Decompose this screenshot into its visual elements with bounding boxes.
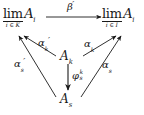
limit-left-index: i ∈ K (3, 22, 23, 29)
limit-left-body-subscript: i (33, 16, 35, 24)
label-phi-subscript: s (80, 75, 84, 81)
label-alpha-k-prime: αk′ (38, 38, 50, 50)
limit-right-body-subscript: i (132, 16, 134, 24)
label-alpha-s: αs (102, 60, 112, 72)
limit-left-operator-stack: lim i ∈ K (3, 7, 23, 29)
label-alpha-k: αk (84, 39, 94, 51)
limit-right-index: i ∈ I (102, 22, 122, 29)
limit-left-operator: lim (3, 7, 23, 22)
limit-right-operator: lim (102, 7, 122, 22)
label-alpha-s-subscript: s (109, 67, 112, 74)
node-limit-right: lim i ∈ I Ai (102, 7, 135, 29)
limit-right-body: Ai (123, 7, 135, 24)
commutative-diagram: lim i ∈ K Ai lim i ∈ I Ai Ak As β′ αk′ α… (0, 0, 144, 115)
label-alpha-k-subscript: k (91, 46, 95, 53)
label-alpha-s-prime-letter: α (14, 58, 21, 69)
object-middle-letter: A (60, 49, 69, 63)
label-phi: φks (72, 70, 83, 83)
label-alpha-k-prime-mark: ′ (48, 36, 50, 46)
label-alpha-k-letter: α (84, 38, 91, 49)
object-bottom-subscript: s (69, 101, 73, 109)
node-object-bottom: As (60, 93, 72, 108)
label-alpha-s-prime: αs′ (14, 59, 26, 71)
node-object-middle: Ak (60, 50, 73, 65)
label-beta-prime: β′ (67, 2, 75, 12)
node-limit-left: lim i ∈ K Ai (3, 7, 36, 29)
label-alpha-s-prime-mark: ′ (23, 57, 25, 67)
label-beta-prime-mark: ′ (72, 0, 74, 10)
object-bottom-letter: A (60, 92, 69, 106)
label-alpha-s-letter: α (102, 59, 109, 70)
label-alpha-k-prime-letter: α (38, 37, 45, 48)
limit-right-operator-stack: lim i ∈ I (102, 7, 122, 29)
limit-left-body: Ai (24, 7, 36, 24)
label-phi-indices: ks (80, 70, 84, 83)
label-phi-letter: φ (72, 70, 79, 81)
object-middle-subscript: k (69, 58, 73, 66)
